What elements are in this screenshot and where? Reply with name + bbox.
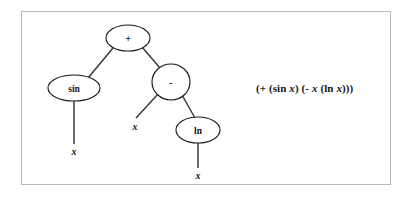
leaf-x-under-ln: x [195,170,201,181]
node-minus[interactable]: - [152,64,190,100]
leaf-x-under-minus: x [132,121,138,132]
tree-edges [74,47,198,168]
sexpression-part-1: (+ (sin [256,82,289,94]
node-ln[interactable]: ln [176,117,220,143]
node-sin[interactable]: sin [48,75,100,101]
edge-minus-to-leaf-x [136,93,159,118]
node-root-plus[interactable]: + [106,25,150,51]
expression-tree: + sin - ln x x x [0,0,411,198]
node-minus-label: - [169,77,172,88]
leaf-x-under-sin: x [71,146,77,157]
edge-root-to-minus [142,47,160,68]
sexpression-part-4: ))) [342,82,353,94]
node-root-plus-label: + [125,33,131,44]
sexpression-label: (+ (sin x) (- x (ln x))) [256,82,353,94]
edge-root-to-sin [88,48,113,78]
sexpression-part-3: (ln [318,82,337,94]
node-ln-label: ln [194,126,203,136]
node-sin-label: sin [68,84,80,94]
sexpression-part-2: ) (- [295,82,312,94]
edge-minus-to-ln [182,95,195,118]
